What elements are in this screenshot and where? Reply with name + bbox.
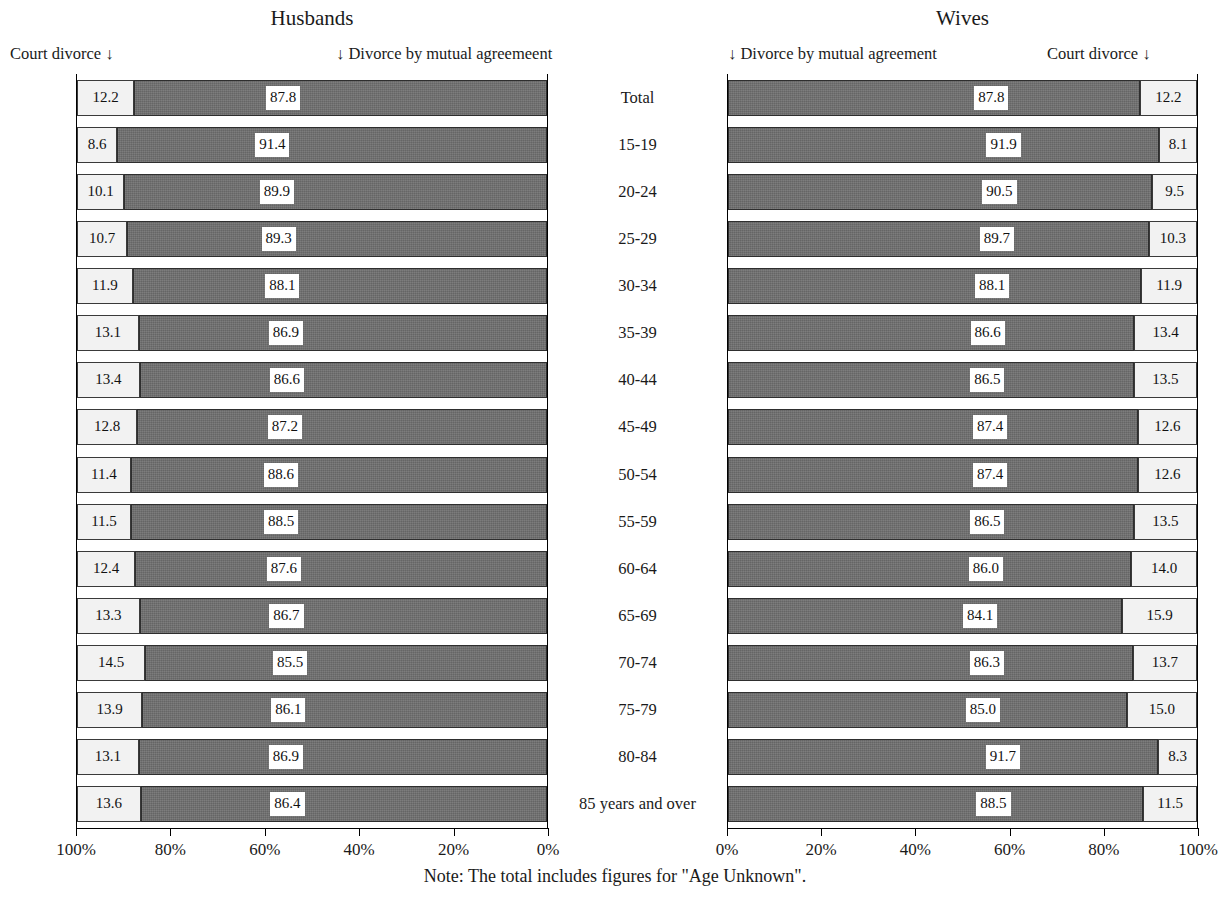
husbands-court-divorce-bar[interactable]: 13.3 (77, 598, 140, 634)
bar-row: 12.287.8 (728, 80, 1197, 116)
husbands-mutual-agreement-bar[interactable]: 89.9 (124, 174, 547, 210)
wives-mutual-agreement-bar[interactable]: 86.0 (728, 551, 1131, 587)
wives-mutual-agreement-bar[interactable]: 86.3 (728, 645, 1133, 681)
bar-row: 10.789.3 (77, 221, 547, 257)
wives-court-divorce-bar[interactable]: 8.3 (1158, 739, 1197, 775)
husbands-court-divorce-bar[interactable]: 13.9 (77, 692, 142, 728)
wives-court-divorce-bar[interactable]: 15.0 (1127, 692, 1197, 728)
husbands-axis-tick-label: 0% (537, 840, 560, 860)
wives-court-divorce-bar[interactable]: 13.5 (1134, 504, 1197, 540)
husbands-mutual-agreement-bar[interactable]: 85.5 (145, 645, 547, 681)
bar-row: 13.486.6 (728, 315, 1197, 351)
husbands-mutual-agreement-bar[interactable]: 88.6 (131, 457, 547, 493)
bar-row: 12.687.4 (728, 457, 1197, 493)
wives-mutual-agreement-bar[interactable]: 86.5 (728, 504, 1134, 540)
husbands-court-divorce-bar[interactable]: 8.6 (77, 127, 117, 163)
wives-court-divorce-bar[interactable]: 13.7 (1133, 645, 1197, 681)
category-label: 55-59 (548, 512, 727, 532)
mutual-agreement-value: 86.7 (270, 605, 302, 627)
wives-mutual-agreement-bar[interactable]: 87.8 (728, 80, 1140, 116)
wives-court-divorce-bar[interactable]: 11.9 (1141, 268, 1197, 304)
wives-court-divorce-bar[interactable]: 13.4 (1134, 315, 1197, 351)
category-label: 85 years and over (548, 794, 727, 814)
court-divorce-value: 13.4 (92, 369, 124, 391)
wives-court-divorce-bar[interactable]: 9.5 (1152, 174, 1197, 210)
husbands-axis-tick-label: 40% (344, 840, 375, 860)
husbands-court-divorce-bar[interactable]: 10.7 (77, 221, 127, 257)
husbands-court-divorce-bar[interactable]: 11.5 (77, 504, 131, 540)
husbands-mutual-agreement-bar[interactable]: 87.2 (137, 409, 547, 445)
husbands-axis-tick-label: 80% (155, 840, 186, 860)
wives-mutual-agreement-bar[interactable]: 84.1 (728, 598, 1122, 634)
bar-row: 12.287.8 (77, 80, 547, 116)
wives-court-divorce-bar[interactable]: 8.1 (1159, 127, 1197, 163)
wives-mutual-agreement-bar[interactable]: 86.5 (728, 362, 1134, 398)
wives-court-divorce-bar[interactable]: 12.6 (1138, 409, 1197, 445)
husbands-mutual-agreement-bar[interactable]: 86.9 (139, 315, 547, 351)
wives-axis-tick-label: 20% (806, 840, 837, 860)
bar-row: 13.986.1 (77, 692, 547, 728)
wives-court-divorce-bar[interactable]: 11.5 (1143, 786, 1197, 822)
axis-tick (915, 828, 916, 836)
wives-mutual-agreement-bar[interactable]: 91.7 (728, 739, 1158, 775)
husbands-mutual-agreement-bar[interactable]: 88.5 (131, 504, 547, 540)
court-divorce-value: 14.0 (1148, 558, 1180, 580)
axis-tick (1010, 828, 1011, 836)
bar-row: 13.586.5 (728, 362, 1197, 398)
court-divorce-value: 13.5 (1149, 511, 1181, 533)
mutual-agreement-value: 85.5 (274, 652, 306, 674)
mutual-agreement-value: 85.0 (967, 699, 999, 721)
husbands-mutual-agreement-bar[interactable]: 86.4 (141, 786, 547, 822)
husbands-mutual-agreement-bar[interactable]: 87.6 (135, 551, 547, 587)
axis-tick (548, 828, 549, 836)
mutual-agreement-value: 86.5 (971, 369, 1003, 391)
husbands-court-divorce-bar[interactable]: 12.4 (77, 551, 135, 587)
husbands-mutual-agreement-bar[interactable]: 86.7 (140, 598, 547, 634)
husbands-axis-tick-label: 100% (56, 840, 96, 860)
category-label: 30-34 (548, 276, 727, 296)
husbands-court-divorce-bar[interactable]: 13.1 (77, 739, 139, 775)
mutual-agreement-value: 86.1 (272, 699, 304, 721)
wives-mutual-agreement-bar[interactable]: 85.0 (728, 692, 1127, 728)
wives-mutual-agreement-bar[interactable]: 86.6 (728, 315, 1134, 351)
husbands-court-divorce-bar[interactable]: 13.4 (77, 362, 140, 398)
wives-mutual-agreement-bar[interactable]: 90.5 (728, 174, 1152, 210)
bar-row: 15.984.1 (728, 598, 1197, 634)
bar-row: 8.391.7 (728, 739, 1197, 775)
wives-court-divorce-bar[interactable]: 12.2 (1140, 80, 1197, 116)
wives-court-divorce-bar[interactable]: 12.6 (1138, 457, 1197, 493)
husbands-mutual-agreement-bar[interactable]: 86.1 (142, 692, 547, 728)
husbands-mutual-agreement-bar[interactable]: 86.6 (140, 362, 547, 398)
wives-court-divorce-bar[interactable]: 14.0 (1131, 551, 1197, 587)
husbands-court-divorce-bar[interactable]: 12.8 (77, 409, 137, 445)
mutual-agreement-value: 86.4 (271, 793, 303, 815)
mutual-agreement-value: 87.4 (974, 464, 1006, 486)
husbands-court-divorce-bar[interactable]: 14.5 (77, 645, 145, 681)
axis-tick (727, 828, 728, 836)
wives-mutual-agreement-bar[interactable]: 87.4 (728, 457, 1138, 493)
husbands-mutual-agreement-bar[interactable]: 88.1 (133, 268, 547, 304)
husbands-court-divorce-bar[interactable]: 11.9 (77, 268, 133, 304)
wives-mutual-agreement-bar[interactable]: 91.9 (728, 127, 1159, 163)
bar-row: 13.686.4 (77, 786, 547, 822)
wives-mutual-agreement-bar[interactable]: 88.1 (728, 268, 1141, 304)
wives-court-divorce-bar[interactable]: 13.5 (1134, 362, 1197, 398)
husbands-court-divorce-bar[interactable]: 13.1 (77, 315, 139, 351)
husbands-court-divorce-bar[interactable]: 10.1 (77, 174, 124, 210)
wives-court-divorce-bar[interactable]: 10.3 (1149, 221, 1197, 257)
wives-mutual-agreement-bar[interactable]: 87.4 (728, 409, 1138, 445)
mutual-agreement-value: 86.0 (970, 558, 1002, 580)
wives-mutual-agreement-bar[interactable]: 88.5 (728, 786, 1143, 822)
court-divorce-value: 10.7 (86, 228, 118, 250)
husbands-court-divorce-bar[interactable]: 13.6 (77, 786, 141, 822)
wives-court-divorce-bar[interactable]: 15.9 (1122, 598, 1197, 634)
husbands-mutual-agreement-bar[interactable]: 87.8 (134, 80, 547, 116)
husbands-court-divorce-bar[interactable]: 12.2 (77, 80, 134, 116)
court-divorce-value: 10.3 (1157, 228, 1189, 250)
wives-mutual-agreement-bar[interactable]: 89.7 (728, 221, 1149, 257)
husbands-court-divorce-bar[interactable]: 11.4 (77, 457, 131, 493)
husbands-mutual-agreement-bar[interactable]: 91.4 (117, 127, 547, 163)
wives-x-axis (727, 828, 1199, 829)
husbands-mutual-agreement-bar[interactable]: 89.3 (127, 221, 547, 257)
husbands-mutual-agreement-bar[interactable]: 86.9 (139, 739, 547, 775)
